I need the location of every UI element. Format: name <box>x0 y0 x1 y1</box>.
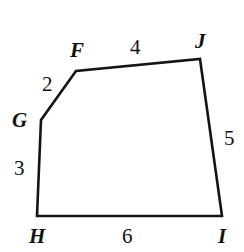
side-length-hi: 6 <box>122 226 133 247</box>
side-length-fj: 4 <box>130 37 141 58</box>
vertex-label-h: H <box>29 226 45 247</box>
pentagon-outline-svg <box>0 0 244 252</box>
side-length-ij: 5 <box>224 128 235 149</box>
vertex-label-j: J <box>195 31 206 52</box>
side-length-gf: 2 <box>42 74 53 95</box>
vertex-label-i: I <box>218 226 226 247</box>
side-length-gh: 3 <box>14 158 25 179</box>
geometry-figure: F G H I J 4 2 3 6 5 <box>0 0 244 252</box>
vertex-label-g: G <box>12 110 27 131</box>
vertex-label-f: F <box>70 40 84 61</box>
pentagon-shape <box>37 59 222 216</box>
